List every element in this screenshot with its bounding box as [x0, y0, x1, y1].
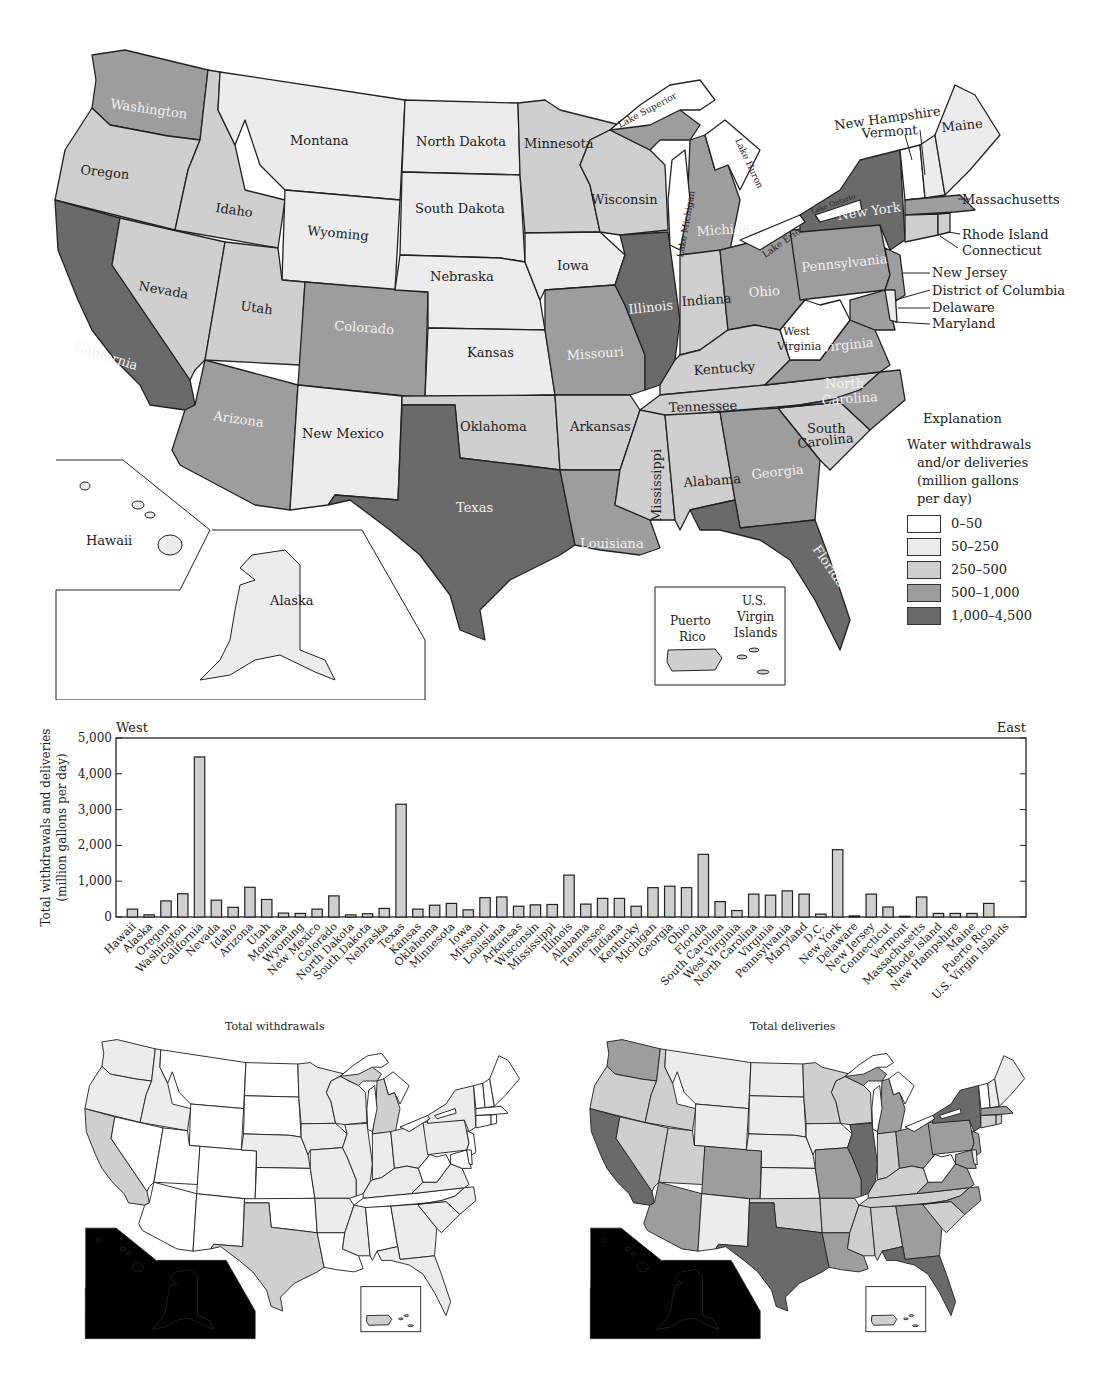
bar	[883, 907, 893, 917]
island-hawaii-big	[132, 1263, 143, 1272]
legend-subtitle: per day)	[917, 490, 1085, 508]
legend-swatch	[907, 515, 941, 533]
state-wyoming	[189, 1104, 243, 1150]
label-usvi-line2: Virgin	[736, 610, 775, 624]
label-maryland: Maryland	[932, 316, 995, 331]
bar	[547, 904, 557, 917]
bar	[513, 906, 523, 917]
bar	[849, 916, 859, 917]
state-connecticut	[981, 1115, 996, 1128]
island-hawaii-big	[158, 535, 182, 555]
state-kansas	[425, 328, 555, 398]
state-maine	[995, 1056, 1025, 1107]
puerto-rico-shape	[366, 1315, 391, 1325]
bar	[816, 914, 826, 917]
state-south-dakota	[749, 1096, 807, 1137]
label-alaska: Alaska	[269, 593, 314, 608]
label-usvi-line1: U.S.	[742, 594, 766, 608]
legend-label: 500–1,000	[951, 584, 1020, 602]
bar	[715, 902, 725, 917]
bar	[144, 915, 154, 917]
bar	[329, 896, 339, 917]
label-puerto-rico-line2: Rico	[679, 630, 706, 644]
east-label: East	[997, 720, 1027, 735]
bar	[698, 854, 708, 917]
state-new-mexico	[193, 1194, 245, 1252]
bar	[312, 909, 322, 917]
label-wisconsin: Wisconsin	[591, 192, 658, 207]
bar	[211, 900, 221, 917]
legend-title: Explanation	[923, 410, 1085, 428]
y-tick-label: 3,000	[78, 803, 112, 817]
state-new-mexico	[698, 1194, 750, 1252]
bar	[362, 914, 372, 917]
bar	[916, 897, 926, 917]
label-montana: Montana	[290, 133, 349, 148]
legend-label: 1,000–4,500	[951, 607, 1032, 625]
label-vermont: Vermont	[860, 122, 919, 141]
bar	[581, 904, 591, 917]
bar	[967, 913, 977, 917]
bar	[278, 913, 288, 917]
state-colorado	[197, 1146, 257, 1199]
state-montana	[160, 1050, 246, 1109]
state-new-mexico	[290, 385, 402, 510]
bar	[413, 909, 423, 917]
label-district-of-columbia: District of Columbia	[932, 283, 1065, 298]
label-west-virginia-line1: West	[783, 325, 811, 338]
withdrawals-map-title: Total withdrawals	[225, 1020, 325, 1033]
label-new-mexico: New Mexico	[302, 426, 384, 441]
legend-swatch	[907, 584, 941, 602]
bar	[530, 905, 540, 917]
state-maine	[935, 85, 1000, 195]
bar	[396, 804, 406, 917]
bar	[161, 901, 171, 917]
state-pennsylvania	[423, 1120, 469, 1155]
bar	[732, 911, 742, 917]
y-tick-label: 2,000	[78, 838, 112, 852]
label-west-virginia-line2: Virginia	[776, 340, 822, 353]
bar	[564, 875, 574, 917]
deliveries-map	[560, 1035, 1030, 1385]
withdrawals-map	[55, 1035, 525, 1385]
bar	[900, 916, 910, 917]
label-tennessee: Tennessee	[669, 398, 738, 415]
label-kansas: Kansas	[467, 345, 514, 360]
bar	[665, 886, 675, 917]
legend-swatch	[907, 607, 941, 625]
bar	[245, 887, 255, 917]
legend-label: 250–500	[951, 561, 1007, 579]
legend-items: 0–5050–250250–500500–1,0001,000–4,500	[895, 512, 1085, 627]
state-montana	[665, 1050, 751, 1109]
state-rhode-island	[491, 1115, 497, 1125]
label-texas: Texas	[456, 500, 493, 515]
state-maine	[490, 1056, 520, 1107]
bar	[446, 903, 456, 917]
legend-swatch	[907, 538, 941, 556]
bar	[648, 888, 658, 917]
label-north-dakota: North Dakota	[416, 134, 506, 149]
island-hawaii-big	[637, 1263, 648, 1272]
y-tick-label: 4,000	[78, 767, 112, 781]
y-tick-label: 5,000	[78, 731, 112, 745]
label-nebraska: Nebraska	[430, 269, 494, 284]
state-colorado	[298, 282, 428, 398]
bar	[262, 899, 272, 917]
label-louisiana: Louisiana	[580, 536, 644, 551]
bar	[463, 910, 473, 917]
bar	[950, 913, 960, 917]
label-arkansas: Arkansas	[569, 419, 631, 434]
label-minnesota: Minnesota	[524, 136, 594, 151]
label-hawaii: Hawaii	[86, 533, 132, 548]
state-colorado	[702, 1146, 762, 1199]
bar	[480, 898, 490, 917]
legend-item: 0–50	[907, 512, 1085, 535]
bar	[631, 906, 641, 917]
bar	[228, 907, 238, 917]
state-south-dakota	[400, 172, 525, 262]
state-south-dakota	[244, 1096, 302, 1137]
label-north-carolina-line1: North	[825, 376, 865, 391]
y-axis-label: (million gallons per day)	[55, 753, 69, 901]
state-pennsylvania	[928, 1120, 974, 1155]
label-delaware: Delaware	[932, 300, 995, 315]
